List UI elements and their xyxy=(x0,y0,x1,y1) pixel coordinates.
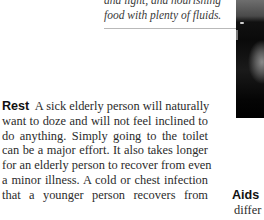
photo-caption: and light, and nourishing food with plen… xyxy=(104,0,234,23)
photo-detail xyxy=(236,30,238,40)
caption-line: food with plenty of fluids. xyxy=(104,8,234,23)
body-line: that a younger person recovers from xyxy=(2,188,208,203)
body-line: can be a major effort. It also takes lon… xyxy=(2,143,208,158)
body-line: do anything. Simply going to the toilet xyxy=(2,129,208,144)
body-line: for an elderly person to recover from ev… xyxy=(2,158,208,173)
section-heading-rest: Rest xyxy=(2,99,29,113)
body-line-text: A sick elderly person will naturally xyxy=(35,99,209,113)
side-column-text: differ xyxy=(234,203,261,218)
body-paragraph-rest: Rest A sick elderly person will naturall… xyxy=(2,99,208,203)
body-line: a minor illness. A cold or chest infecti… xyxy=(2,173,208,188)
caption-line: and light, and nourishing xyxy=(104,0,234,8)
photo-detail xyxy=(240,22,244,24)
photo xyxy=(236,0,264,118)
section-heading-aids: Aids xyxy=(232,188,259,202)
body-line: Rest A sick elderly person will naturall… xyxy=(2,99,208,114)
caption-divider xyxy=(104,28,240,29)
body-line: want to doze and will not feel inclined … xyxy=(2,114,208,129)
